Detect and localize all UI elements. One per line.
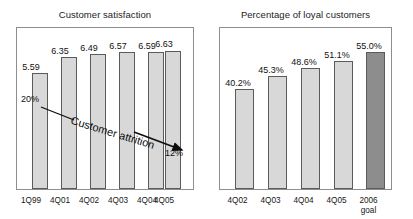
x-label-4q02: 4Q02 [74, 196, 104, 206]
customer-satisfaction-chart: Customer satisfaction [0, 0, 200, 219]
bar-value-4q05: 51.1% [317, 50, 357, 60]
bar-value-2006-goal: 55.0% [349, 41, 389, 51]
bar-2006-goal [366, 52, 385, 189]
attrition-start-pct: 20% [21, 94, 39, 104]
bar-value-4q02: 40.2% [218, 78, 258, 88]
x-label-4q01: 4Q01 [45, 196, 75, 206]
chart-page: Customer satisfaction [0, 0, 413, 219]
left-chart-title: Customer satisfaction [16, 9, 194, 20]
bar-4q05 [334, 61, 353, 189]
bar-value-1q99: 5.59 [16, 62, 46, 72]
bar-4q03 [268, 76, 287, 189]
customer-attrition-arrow [17, 28, 195, 191]
x-label-2006-goal-year: 2006 [351, 196, 386, 206]
x-label-1q99: 1Q99 [16, 196, 46, 206]
loyal-customers-chart: Percentage of loyal customers 40.2% 45.3… [206, 0, 413, 219]
x-label-2006-goal: 2006 goal [351, 196, 386, 215]
x-label-2006-goal-word: goal [351, 206, 386, 216]
x-label-4q04: 4Q04 [286, 196, 321, 206]
right-chart-plot-frame [219, 27, 392, 190]
left-chart-plot-frame: Customer attrition [16, 27, 194, 190]
attrition-end-pct: 12% [165, 148, 183, 158]
bar-4q02 [235, 89, 254, 189]
bar-value-4q05: 6.63 [149, 39, 179, 49]
bar-value-4q03: 6.57 [103, 41, 133, 51]
bar-4q04 [301, 68, 320, 189]
bar-value-4q01: 6.35 [45, 46, 75, 56]
x-label-4q02: 4Q02 [220, 196, 255, 206]
x-label-4q05: 4Q05 [149, 196, 179, 206]
x-label-4q03: 4Q03 [253, 196, 288, 206]
x-label-4q05: 4Q05 [319, 196, 354, 206]
x-label-4q03: 4Q03 [103, 196, 133, 206]
right-chart-title: Percentage of loyal customers [219, 9, 392, 20]
bar-value-4q02: 6.49 [74, 43, 104, 53]
